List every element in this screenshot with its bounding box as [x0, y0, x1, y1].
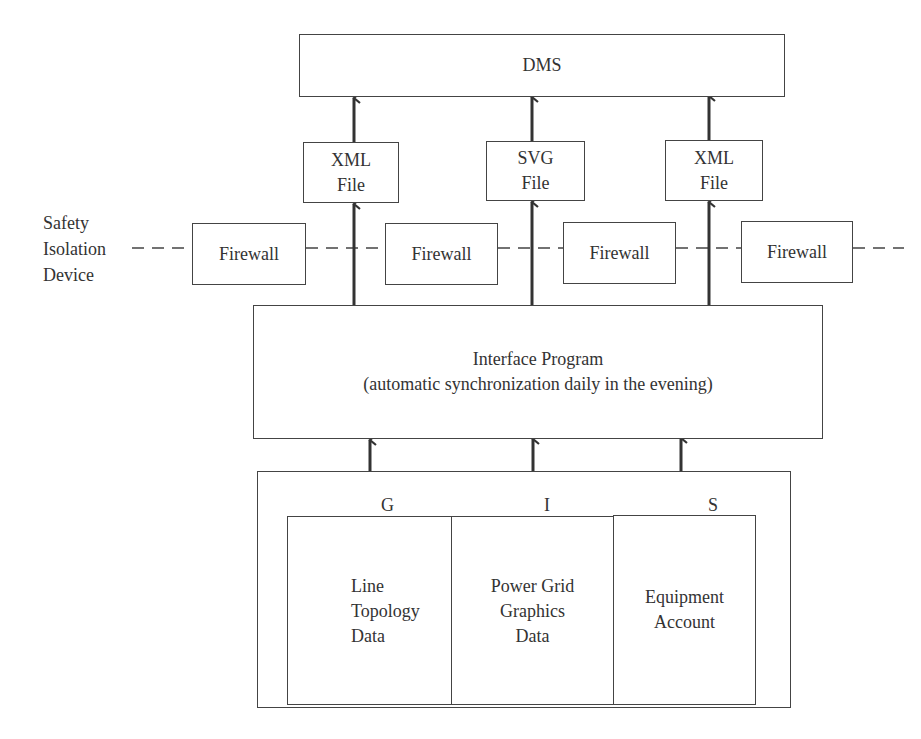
file-type-label: XML — [331, 148, 371, 173]
label-line: Device — [43, 262, 106, 288]
column-text-line: Topology — [351, 599, 420, 624]
gis-letter-i: I — [544, 492, 550, 518]
file-type-label: XML — [694, 146, 734, 171]
dms-box: DMS — [299, 34, 785, 97]
firewall-label: Firewall — [412, 242, 472, 267]
xml-file-box-right: XML File — [665, 140, 763, 201]
interface-program-box: Interface Program (automatic synchroniza… — [253, 305, 823, 439]
equipment-account-column: Equipment Account — [613, 515, 756, 705]
firewall-box-1: Firewall — [192, 223, 306, 285]
firewall-box-2: Firewall — [385, 223, 498, 285]
file-label: File — [337, 173, 365, 198]
gis-letter-g: G — [381, 492, 394, 518]
firewall-label: Firewall — [590, 241, 650, 266]
firewall-label: Firewall — [767, 240, 827, 265]
column-text-line: Account — [614, 610, 755, 635]
file-label: File — [521, 171, 549, 196]
column-text-line: Equipment — [614, 585, 755, 610]
column-text-line: Power Grid — [452, 574, 613, 599]
firewall-box-4: Firewall — [741, 221, 853, 283]
label-line: Isolation — [43, 236, 106, 262]
svg-file-box: SVG File — [486, 141, 585, 201]
safety-isolation-device-label: Safety Isolation Device — [43, 210, 106, 288]
firewall-label: Firewall — [219, 242, 279, 267]
column-text-line: Line — [351, 574, 420, 599]
column-text-line: Data — [351, 624, 420, 649]
interface-subtitle: (automatic synchronization daily in the … — [363, 372, 712, 397]
column-text-line: Graphics — [452, 599, 613, 624]
firewall-box-3: Firewall — [563, 222, 676, 284]
interface-title: Interface Program — [473, 347, 603, 372]
label-line: Safety — [43, 210, 106, 236]
column-text-line: Data — [452, 624, 613, 649]
power-grid-graphics-data-column: Power Grid Graphics Data — [451, 516, 614, 705]
xml-file-box-left: XML File — [303, 142, 399, 203]
file-type-label: SVG — [517, 146, 553, 171]
dms-label: DMS — [522, 53, 561, 78]
line-topology-data-column: Line Topology Data — [287, 516, 452, 705]
file-label: File — [700, 171, 728, 196]
